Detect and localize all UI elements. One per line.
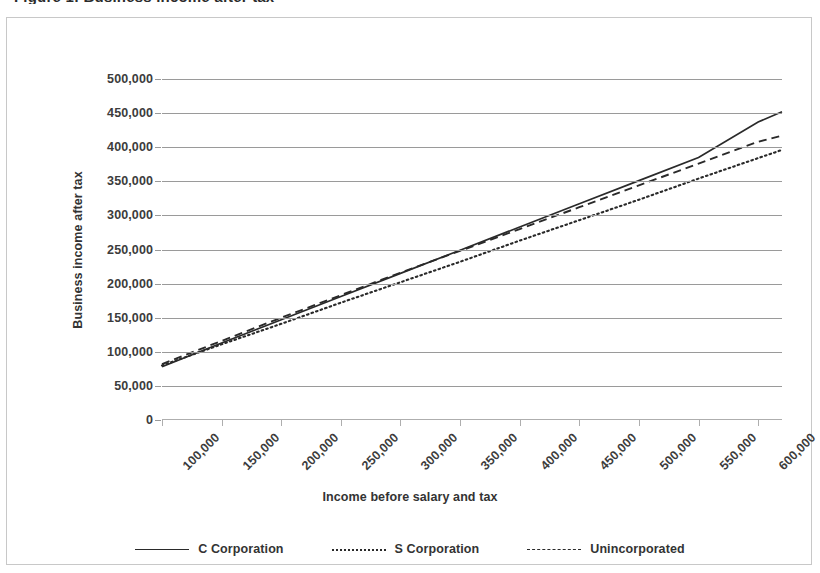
legend-swatch-dotted-icon <box>332 544 386 554</box>
x-tick-mark <box>341 420 342 426</box>
legend-label: S Corporation <box>395 542 480 556</box>
legend-item[interactable]: S Corporation <box>332 542 480 556</box>
gridline-horizontal <box>162 318 782 319</box>
y-tick-label: 150,000 <box>107 311 153 325</box>
y-tick-label: 50,000 <box>114 379 153 393</box>
gridline-horizontal <box>162 147 782 148</box>
gridline-horizontal <box>162 79 782 80</box>
y-tick-label: 400,000 <box>107 140 153 154</box>
legend-item[interactable]: Unincorporated <box>527 542 684 556</box>
y-tick-mark <box>155 352 161 353</box>
y-tick-mark <box>155 420 161 421</box>
y-tick-label: 100,000 <box>107 345 153 359</box>
gridline-horizontal <box>162 215 782 216</box>
y-tick-label: 250,000 <box>107 243 153 257</box>
x-tick-mark <box>758 420 759 426</box>
legend-swatch-solid-icon <box>135 544 189 554</box>
y-tick-mark <box>155 113 161 114</box>
y-tick-mark <box>155 79 161 80</box>
chart-frame: Business income after tax 050,000100,000… <box>6 17 812 565</box>
x-tick-mark <box>520 420 521 426</box>
gridline-horizontal <box>162 250 782 251</box>
legend-label: Unincorporated <box>590 542 684 556</box>
chart-page: Figure 1: Business income after tax Busi… <box>0 0 820 573</box>
gridline-horizontal <box>162 386 782 387</box>
y-tick-mark <box>155 250 161 251</box>
gridline-horizontal <box>162 284 782 285</box>
x-tick-label: 100,000 <box>180 430 222 472</box>
y-axis-title-label: Business income after tax <box>71 171 85 328</box>
x-tick-label: 250,000 <box>359 430 401 472</box>
gridline-horizontal <box>162 181 782 182</box>
y-tick-mark <box>155 386 161 387</box>
cropped-heading-text: Figure 1: Business income after tax <box>14 0 514 4</box>
legend-swatch-dashed-icon <box>527 544 581 554</box>
x-tick-mark <box>579 420 580 426</box>
x-tick-label: 500,000 <box>657 430 699 472</box>
gridline-horizontal <box>162 352 782 353</box>
x-tick-mark <box>162 420 163 426</box>
x-tick-label: 200,000 <box>299 430 341 472</box>
legend-item[interactable]: C Corporation <box>135 542 283 556</box>
y-tick-mark <box>155 215 161 216</box>
chart-legend: C CorporationS CorporationUnincorporated <box>7 542 813 556</box>
y-tick-label: 450,000 <box>107 106 153 120</box>
x-axis-title: Income before salary and tax <box>7 490 813 504</box>
y-tick-mark <box>155 318 161 319</box>
x-tick-label: 450,000 <box>597 430 639 472</box>
y-tick-label: 500,000 <box>107 72 153 86</box>
x-tick-label: 350,000 <box>478 430 520 472</box>
x-tick-mark <box>639 420 640 426</box>
x-tick-mark <box>699 420 700 426</box>
x-tick-mark <box>281 420 282 426</box>
y-tick-mark <box>155 147 161 148</box>
legend-label: C Corporation <box>198 542 283 556</box>
y-tick-mark <box>155 181 161 182</box>
plot-area: 050,000100,000150,000200,000250,000300,0… <box>162 79 782 420</box>
x-tick-label: 600,000 <box>776 430 818 472</box>
y-axis-title: Business income after tax <box>69 79 87 420</box>
x-tick-mark <box>460 420 461 426</box>
y-tick-label: 200,000 <box>107 277 153 291</box>
x-tick-label: 400,000 <box>538 430 580 472</box>
x-tick-label: 550,000 <box>717 430 759 472</box>
y-tick-mark <box>155 284 161 285</box>
y-tick-label: 350,000 <box>107 174 153 188</box>
gridline-horizontal <box>162 113 782 114</box>
y-tick-label: 300,000 <box>107 208 153 222</box>
x-tick-label: 300,000 <box>418 430 460 472</box>
series-line-c-corporation <box>162 112 782 367</box>
x-axis-baseline <box>162 419 782 420</box>
x-tick-mark <box>222 420 223 426</box>
x-tick-label: 150,000 <box>240 430 282 472</box>
x-tick-mark <box>400 420 401 426</box>
y-tick-label: 0 <box>146 413 153 427</box>
